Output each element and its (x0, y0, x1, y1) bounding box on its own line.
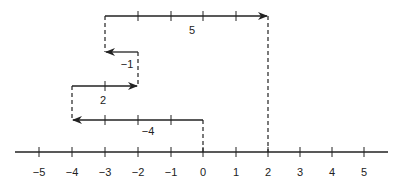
tick-label: 2 (265, 166, 271, 178)
tick-label: 3 (297, 166, 303, 178)
step-label: 2 (100, 94, 106, 106)
tick-label: −5 (33, 166, 46, 178)
tick-label: 5 (361, 166, 367, 178)
number-line-diagram: −5 −4 −3 −2 −1 0 1 2 3 4 5 −4 2 (0, 0, 403, 191)
arrow-step-minus-1: −1 (106, 52, 138, 70)
dashed-connectors (72, 16, 268, 152)
step-label: 5 (189, 24, 195, 36)
tick-label: 1 (233, 166, 239, 178)
tick-label: 0 (200, 166, 206, 178)
arrow-step-plus-5: 5 (105, 11, 267, 36)
tick-label: 4 (329, 166, 335, 178)
tick-label: −3 (99, 166, 112, 178)
tick-label: −1 (165, 166, 178, 178)
tick-labels: −5 −4 −3 −2 −1 0 1 2 3 4 5 (33, 166, 367, 178)
step-label: −1 (121, 58, 134, 70)
step-label: −4 (142, 125, 155, 137)
number-line: −5 −4 −3 −2 −1 0 1 2 3 4 5 (15, 147, 388, 178)
arrow-step-minus-4: −4 (73, 115, 203, 137)
arrow-step-plus-2: 2 (72, 81, 137, 106)
tick-label: −4 (66, 166, 79, 178)
tick-label: −2 (132, 166, 145, 178)
